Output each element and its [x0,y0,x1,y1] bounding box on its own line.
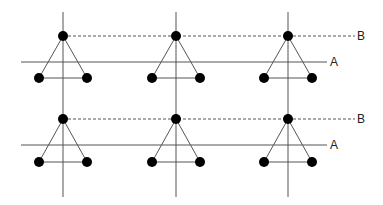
bottom-left-vertex-dot [147,157,157,167]
bottom-right-vertex-dot [195,157,205,167]
bottom-right-vertex-dot [82,73,92,83]
label-b: B [357,29,365,43]
bottom-left-vertex-dot [147,73,157,83]
bottom-right-vertex-dot [307,157,317,167]
top-vertex-dot [58,31,68,41]
top-vertex-dot [283,31,293,41]
top-vertex-dot [58,114,68,124]
bottom-right-vertex-dot [195,73,205,83]
top-vertex-dot [171,31,181,41]
bottom-left-vertex-dot [34,157,44,167]
bottom-left-vertex-dot [259,73,269,83]
top-vertex-dot [283,114,293,124]
top-vertex-dot [171,114,181,124]
triangle-rows: ABAB [21,29,365,167]
triangle-row: AB [21,29,365,83]
label-a: A [330,138,338,152]
bottom-left-vertex-dot [259,157,269,167]
bottom-right-vertex-dot [307,73,317,83]
triangle-lattice-diagram: ABAB [0,0,383,205]
label-b: B [357,112,365,126]
bottom-right-vertex-dot [82,157,92,167]
label-a: A [330,55,338,69]
triangle-row: AB [21,112,365,167]
bottom-left-vertex-dot [34,73,44,83]
